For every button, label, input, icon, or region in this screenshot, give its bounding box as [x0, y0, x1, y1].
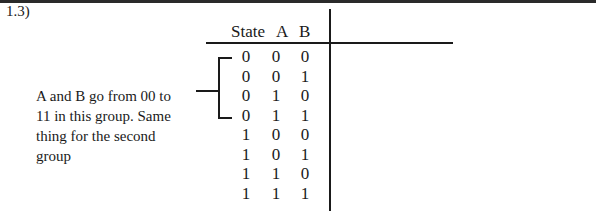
cell-state: 1 [239, 145, 253, 164]
annotation-line: A and B go from 00 to [36, 86, 196, 106]
header-state: State [231, 22, 265, 42]
cell-a: 0 [269, 145, 283, 164]
cell-a: 0 [269, 47, 283, 66]
cell-a: 1 [269, 106, 283, 125]
cell-state: 0 [239, 106, 253, 125]
cell-b: 1 [298, 106, 312, 125]
cell-state: 1 [239, 125, 253, 144]
group-annotation: A and B go from 00 to 11 in this group. … [36, 86, 196, 166]
cell-b: 0 [298, 125, 312, 144]
header-a: A [276, 22, 288, 42]
cell-a: 1 [269, 86, 283, 105]
cell-b: 0 [298, 47, 312, 66]
annotation-line: 11 in this group. Same [36, 106, 196, 126]
cell-b: 1 [298, 145, 312, 164]
cell-state: 0 [239, 86, 253, 105]
annotation-line: group [36, 146, 196, 166]
header-b: B [299, 22, 310, 42]
bracket-bottom-arm [218, 117, 232, 119]
cell-b: 1 [298, 184, 312, 203]
problem-label: 1.3) [6, 2, 30, 20]
cell-state: 0 [239, 47, 253, 66]
cell-state: 0 [239, 67, 253, 86]
annotation-line: thing for the second [36, 126, 196, 146]
cell-b: 1 [298, 67, 312, 86]
cell-b: 0 [298, 86, 312, 105]
cell-b: 0 [298, 164, 312, 183]
output-divider-line [329, 9, 331, 211]
bracket-top-arm [218, 57, 232, 59]
cell-a: 1 [269, 184, 283, 203]
cell-a: 0 [269, 67, 283, 86]
bracket-vertical [218, 57, 220, 119]
cell-state: 1 [239, 184, 253, 203]
cell-a: 1 [269, 164, 283, 183]
cell-a: 0 [269, 125, 283, 144]
bracket-pointer [196, 90, 219, 92]
top-border-rule [0, 0, 596, 3]
cell-state: 1 [239, 164, 253, 183]
